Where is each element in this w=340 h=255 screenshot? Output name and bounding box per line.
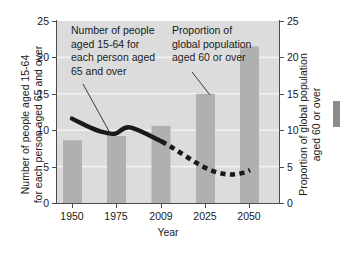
right-ytick-label-25: 25 bbox=[287, 16, 299, 26]
x-tick-2009 bbox=[161, 204, 162, 208]
right-tick-0 bbox=[280, 203, 284, 204]
left-tick-20 bbox=[52, 57, 56, 58]
bar-1950 bbox=[63, 140, 82, 203]
x-axis-title: Year bbox=[57, 226, 279, 239]
bar-2025 bbox=[196, 94, 215, 203]
y-axis-title-right: Proportion of global population aged 60 … bbox=[297, 32, 322, 218]
bottom-axis-line bbox=[56, 203, 280, 204]
x-tick-label-1975: 1975 bbox=[93, 210, 139, 222]
x-tick-label-2025: 2025 bbox=[182, 210, 228, 222]
right-axis-line bbox=[279, 20, 280, 204]
left-axis-line bbox=[56, 20, 57, 204]
bar-series-annotation: Proportion of global population aged 60 … bbox=[172, 24, 268, 65]
right-tick-5 bbox=[280, 167, 284, 168]
left-tick-10 bbox=[52, 130, 56, 131]
page-edge-artifact bbox=[333, 101, 340, 127]
bar-1975 bbox=[107, 136, 126, 203]
y-axis-title-left: Number of people aged 15-64 for each per… bbox=[19, 32, 44, 218]
left-tick-25 bbox=[52, 21, 56, 22]
right-tick-25 bbox=[280, 21, 284, 22]
x-tick-label-2050: 2050 bbox=[226, 210, 272, 222]
right-ytick-label-0: 0 bbox=[287, 198, 293, 208]
left-tick-0 bbox=[52, 203, 56, 204]
left-tick-5 bbox=[52, 167, 56, 168]
x-tick-label-1950: 1950 bbox=[49, 210, 95, 222]
right-ytick-label-5: 5 bbox=[287, 162, 293, 172]
bar-2050 bbox=[240, 47, 259, 204]
left-ytick-label-0: 0 bbox=[43, 198, 49, 208]
left-ytick-label-25: 25 bbox=[37, 16, 49, 26]
x-tick-1975 bbox=[116, 204, 117, 208]
left-tick-15 bbox=[52, 94, 56, 95]
right-tick-20 bbox=[280, 57, 284, 58]
line-series-annotation: Number of people aged 15-64 for each per… bbox=[71, 24, 171, 78]
x-tick-2025 bbox=[205, 204, 206, 208]
right-tick-10 bbox=[280, 130, 284, 131]
right-tick-15 bbox=[280, 94, 284, 95]
x-tick-label-2009: 2009 bbox=[138, 210, 184, 222]
x-tick-1950 bbox=[72, 204, 73, 208]
x-tick-2050 bbox=[249, 204, 250, 208]
chart-figure: 0 5 10 15 20 25 0 5 10 15 20 25 1950 197… bbox=[0, 0, 340, 255]
left-ytick-label-5: 5 bbox=[43, 162, 49, 172]
